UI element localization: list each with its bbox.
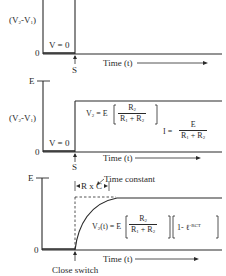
formula-v2-fraction: R2 R1 + R2 [118,104,146,123]
panel-top-switch-arrowhead [73,55,77,59]
formula-vt-numerator: R2 [137,215,149,224]
panel-bottom-switch-arrowhead [73,251,77,255]
formula-v2-lhs: V2 = E [86,110,108,118]
panel-top-zero-label: 0 [35,49,40,58]
formula-vt-exponent: -RCT [190,223,201,228]
panel-bottom-time-arrowhead [194,257,199,261]
formula-i-fraction: E R1 + R2 [179,121,207,140]
time-constant-label: Time constant [104,175,155,184]
panel-top-time-label: Time (t) [103,59,132,68]
formula-vt-fraction: R2 R1 + R2 [129,215,157,234]
panel-middle-y-label: (V2-V1) [9,114,36,123]
formula-i-lhs: I = [163,128,172,136]
panel-bottom-e-label: E [28,174,34,183]
formula-vt-lhs: V2(t) = E [92,223,121,231]
formula-i-denominator: R1 + R2 [179,130,207,140]
panel-top-y-label: (V2-V1) [9,16,36,25]
panel-bottom-zero-label: 0 [34,246,39,255]
formula-vt-factor: 1- ℓ [177,223,190,232]
panel-middle-switch-arrowhead [73,153,77,157]
panel-bottom-time-label: Time (t) [103,255,132,264]
panel-top-region-label: V = 0 [49,41,69,50]
panel-middle-switch-label: S [72,163,77,172]
formula-vt-denominator: R1 + R2 [129,224,157,234]
panel-top-switch-label: S [72,66,77,75]
panel-middle-time-arrowhead [196,156,201,160]
panel-top-time-arrowhead [203,61,208,65]
formula-v2-denominator: R1 + R2 [118,113,146,123]
panel-middle-zero-label: 0 [35,148,40,157]
formula-i-numerator: E [189,121,198,130]
rc-label: R x C [81,182,102,191]
panel-middle-e-label: E [29,77,35,86]
formula-v2-numerator: R2 [126,104,138,113]
formula-vt-exp-factor: 1- ℓ-RCT [177,223,201,232]
panel-middle-time-label: Time (t) [103,154,132,163]
panel-middle-region-label: V = 0 [49,139,69,148]
close-switch-label: Close switch [52,266,98,275]
